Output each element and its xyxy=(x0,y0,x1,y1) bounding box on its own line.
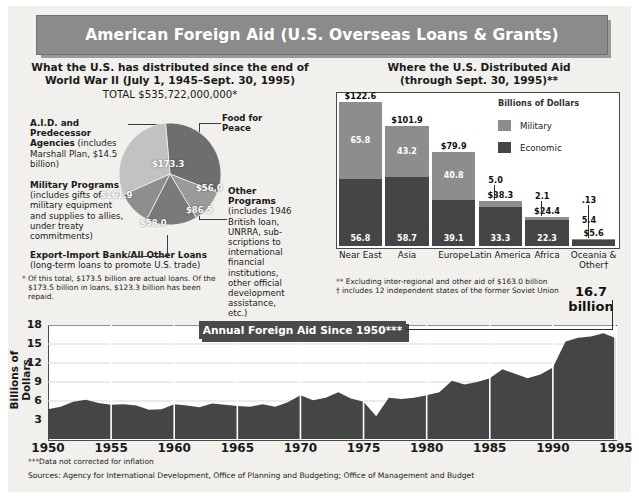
bar-segment-military-0: 65.8 xyxy=(339,102,383,179)
area-x-tick-1980: 1980 xyxy=(404,441,450,455)
bar-callout-military-4: 2.1 xyxy=(535,191,550,201)
area-y-tick-6: 6 xyxy=(22,394,42,407)
bar-segment-economic-5 xyxy=(572,240,616,246)
bar-segment-economic-2: 39.1 xyxy=(432,200,476,246)
bar-callout-military-4-line xyxy=(541,201,542,216)
bar-column-2: 40.839.1 xyxy=(432,152,476,246)
legend-title: Billions of Dollars xyxy=(498,98,616,108)
bar-heading-line2: (through Sept. 30, 1995)** xyxy=(330,74,628,87)
area-y-tick-15: 15 xyxy=(22,337,42,350)
bar-value-military-2: 40.8 xyxy=(432,171,476,180)
pie-label-exim-rest: (long-term loans to promote U.S. trade) xyxy=(30,260,200,270)
bar-callout-military-3: 5.0 xyxy=(488,175,503,185)
bar-callout-military-3-line xyxy=(494,185,495,200)
page-title-text: American Foreign Aid (U.S. Overseas Loan… xyxy=(85,26,559,44)
legend-swatch-economic xyxy=(498,142,511,153)
bar-total-2: $79.9 xyxy=(424,141,484,151)
pie-value-other: $86.5 xyxy=(186,205,213,215)
annual-aid-callout: 16.7 billion xyxy=(556,285,626,314)
area-chart xyxy=(48,325,616,439)
bar-column-0: 65.856.8 xyxy=(339,102,383,246)
pie-footnote-marker: * xyxy=(22,274,26,283)
area-y-axis-title: Billions of Dollars xyxy=(6,330,20,434)
pie-footnote: * Of this total, $173.5 billion are actu… xyxy=(28,274,220,302)
pie-value-aid: $173.3 xyxy=(152,159,184,169)
area-banner: Annual Foreign Aid Since 1950*** xyxy=(199,321,406,339)
infographic-page: American Foreign Aid (U.S. Overseas Loan… xyxy=(0,0,639,498)
area-x-tick-1950: 1950 xyxy=(25,441,71,455)
legend-label-military: Military xyxy=(520,121,552,131)
bar-value-economic-0: 56.8 xyxy=(339,234,383,243)
legend-label-economic: Economic xyxy=(520,143,562,153)
area-chart-series xyxy=(48,333,616,439)
bar-value-economic-2: 39.1 xyxy=(432,234,476,243)
bar-segment-economic-3: 33.3 xyxy=(479,207,523,246)
bar-value-economic-4: 22.3 xyxy=(525,234,569,243)
pie-label-other-programs: Other Programs (includes 1946 British lo… xyxy=(228,186,294,319)
pie-label-aid: A.I.D. and Predecessor Agencies (include… xyxy=(30,118,126,169)
page-title: American Foreign Aid (U.S. Overseas Loan… xyxy=(36,15,608,55)
bar-value-economic-1: 58.7 xyxy=(385,234,429,243)
bar-total-5: $5.6 xyxy=(564,228,624,238)
area-x-tick-1985: 1985 xyxy=(467,441,513,455)
area-y-tick-18: 18 xyxy=(22,318,42,331)
bar-value-military-0: 65.8 xyxy=(339,136,383,145)
pie-label-exim: Export-Import Bank/All Other Loans (long… xyxy=(30,250,210,270)
area-x-tick-1960: 1960 xyxy=(151,441,197,455)
pie-panel-heading: What the U.S. has distributed since the … xyxy=(24,61,316,101)
area-banner-leader-vertical xyxy=(612,300,613,330)
sources-line: Sources: Agency for International Develo… xyxy=(28,471,474,480)
pie-value-military: $161.9 xyxy=(100,190,132,200)
area-banner-text: Annual Foreign Aid Since 1950*** xyxy=(203,324,402,336)
bar-total-3: $38.3 xyxy=(470,190,530,200)
annual-aid-callout-value: 16.7 xyxy=(556,285,626,300)
area-x-tick-1970: 1970 xyxy=(277,441,323,455)
bar-segment-military-2: 40.8 xyxy=(432,152,476,200)
leader-line-exim-vertical xyxy=(167,235,168,257)
pie-heading-line2: World War II (July 1, 1945–Sept. 30, 199… xyxy=(24,74,316,87)
area-x-tick-1955: 1955 xyxy=(88,441,134,455)
annual-aid-callout-unit: billion xyxy=(556,300,626,315)
bar-column-4: 22.3 xyxy=(525,217,569,246)
bar-footnote-1: ** Excluding inter-regional and other ai… xyxy=(336,277,586,286)
pie-label-military-bold: Military Programs xyxy=(30,180,119,190)
bar-segment-economic-4: 22.3 xyxy=(525,220,569,246)
bar-callout-military-5: .13 xyxy=(582,195,597,205)
area-y-tick-12: 12 xyxy=(22,356,42,369)
area-x-tick-1975: 1975 xyxy=(341,441,387,455)
legend-item-military: Military xyxy=(498,120,616,131)
bar-value-economic-3: 33.3 xyxy=(479,234,523,243)
pie-value-food: $56.0 xyxy=(196,183,223,193)
pie-heading-line1: What the U.S. has distributed since the … xyxy=(24,61,316,74)
area-banner-leader-horizontal xyxy=(406,329,613,330)
bar-total-4: $24.4 xyxy=(517,206,577,216)
bar-total-1: $101.9 xyxy=(377,115,437,125)
pie-label-other-rest: (includes 1946 British loan, UNRRA, sub-… xyxy=(228,206,292,318)
area-x-tick-1965: 1965 xyxy=(214,441,260,455)
bar-column-1: 43.258.7 xyxy=(385,126,429,246)
bar-value-military-1: 43.2 xyxy=(385,147,429,156)
pie-footnote-text: Of this total, $173.5 billion are actual… xyxy=(28,274,216,301)
legend-swatch-military xyxy=(498,120,511,131)
area-y-tick-9: 9 xyxy=(22,375,42,388)
bar-callout-economic-5-line xyxy=(588,225,589,238)
bar-segment-economic-1: 58.7 xyxy=(385,177,429,246)
bar-callout-economic-5: 5.4 xyxy=(582,215,597,225)
pie-label-exim-bold: Export-Import Bank/All Other Loans xyxy=(30,250,207,260)
bar-heading-line1: Where the U.S. Distributed Aid xyxy=(330,61,628,74)
bar-footnote-2: † includes 12 independent states of the … xyxy=(336,286,586,295)
bar-chart-legend: Billions of Dollars Military Economic xyxy=(498,98,616,164)
pie-label-food-for-peace: Food for Peace xyxy=(222,113,292,133)
bar-category-5: Oceania & Other† xyxy=(561,250,627,270)
area-footnote: ***Data not corrected for inflation xyxy=(28,457,154,466)
area-x-tick-1990: 1990 xyxy=(530,441,576,455)
pie-total-label: TOTAL $535,722,000,000* xyxy=(24,88,316,101)
leader-line-exim-horizontal xyxy=(128,256,168,257)
bar-total-0: $122.6 xyxy=(330,91,390,101)
bar-segment-economic-0: 56.8 xyxy=(339,179,383,246)
bar-footnotes: ** Excluding inter-regional and other ai… xyxy=(336,277,586,295)
bar-column-3: 33.3 xyxy=(479,201,523,246)
bar-panel-heading: Where the U.S. Distributed Aid (through … xyxy=(330,61,628,86)
area-y-tick-3: 3 xyxy=(22,413,42,426)
legend-item-economic: Economic xyxy=(498,142,616,153)
